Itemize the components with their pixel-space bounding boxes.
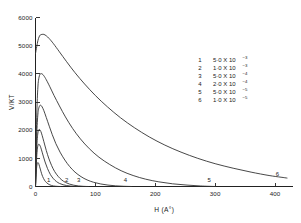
x-tick-label: 100 <box>90 190 101 197</box>
y-axis-title: V/KT <box>8 94 15 110</box>
curve-2 <box>36 144 78 186</box>
y-tick-label: 4000 <box>18 70 33 77</box>
legend-exponent-4: −4 <box>243 79 249 84</box>
curve-label-1: 1 <box>47 177 51 183</box>
legend-number-1: 1 <box>198 57 202 63</box>
legend-number-5: 5 <box>198 89 202 95</box>
curve-label-2: 2 <box>65 177 69 183</box>
x-axis-title: H (A°) <box>154 206 174 214</box>
legend-number-2: 2 <box>198 65 202 71</box>
legend-exponent-2: −3 <box>243 63 249 68</box>
y-tick-label: 5000 <box>18 42 33 49</box>
legend-exponent-6: −5 <box>243 95 249 100</box>
legend-number-6: 6 <box>198 97 202 103</box>
y-tick-label: 0 <box>29 183 33 190</box>
legend-value-4: 2·0 X 10 <box>213 81 236 87</box>
legend-group: 15·0 X 10−321·0 X 10−335·0 X 10−442·0 X … <box>198 55 248 103</box>
x-tick-label: 400 <box>270 190 281 197</box>
y-tick-label: 3000 <box>18 98 33 105</box>
legend-value-3: 5·0 X 10 <box>213 73 236 79</box>
legend-number-3: 3 <box>198 73 202 79</box>
legend-value-5: 5·0 X 10 <box>213 89 236 95</box>
curve-label-6: 6 <box>276 171 280 177</box>
legend-number-4: 4 <box>198 81 202 87</box>
legend-exponent-3: −4 <box>243 71 249 76</box>
data-curves-group <box>36 34 288 186</box>
curve-label-5: 5 <box>207 177 211 183</box>
curve-6 <box>36 34 288 178</box>
curve-5 <box>36 74 216 187</box>
figure-container: 123456 0100020003000400050006000 0100200… <box>0 0 301 223</box>
y-tick-label: 1000 <box>18 155 33 162</box>
x-axis-tick-labels: 0100200300400 <box>34 190 281 197</box>
y-axis-tick-labels: 0100020003000400050006000 <box>18 14 33 190</box>
curve-label-3: 3 <box>77 177 81 183</box>
legend-exponent-5: −5 <box>243 87 249 92</box>
axes-group <box>36 18 294 187</box>
x-tick-label: 0 <box>34 190 38 197</box>
legend-value-1: 5·0 X 10 <box>213 57 236 63</box>
chart-canvas: 123456 0100020003000400050006000 0100200… <box>0 0 301 223</box>
curve-label-4: 4 <box>124 177 128 183</box>
x-tick-label: 300 <box>210 190 221 197</box>
y-tick-label: 6000 <box>18 14 33 21</box>
y-tick-label: 2000 <box>18 126 33 133</box>
legend-exponent-1: −3 <box>243 55 249 60</box>
legend-value-6: 1·0 X 10 <box>213 97 236 103</box>
x-tick-label: 200 <box>150 190 161 197</box>
legend-value-2: 1·0 X 10 <box>213 65 236 71</box>
